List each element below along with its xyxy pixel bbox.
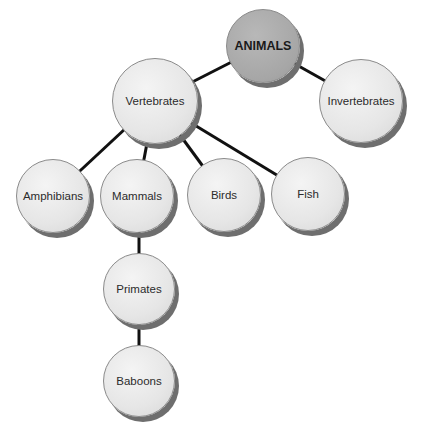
node-invertebrates: Invertebrates [319,59,403,143]
node-vertebrates: Vertebrates [112,58,198,144]
node-label: Invertebrates [327,95,394,107]
node-amphibians: Amphibians [16,159,90,233]
node-primates: Primates [103,253,175,325]
node-baboons: Baboons [103,345,175,417]
node-birds: Birds [187,158,261,232]
node-fish: Fish [271,157,345,231]
node-label: Amphibians [23,190,83,202]
node-label: ANIMALS [235,39,292,53]
node-label: Primates [116,283,161,295]
node-mammals: Mammals [100,159,174,233]
node-label: Fish [297,188,319,200]
node-label: Mammals [112,190,162,202]
node-animals: ANIMALS [226,9,300,83]
node-label: Baboons [116,375,161,387]
node-label: Birds [211,189,237,201]
node-label: Vertebrates [126,95,185,107]
